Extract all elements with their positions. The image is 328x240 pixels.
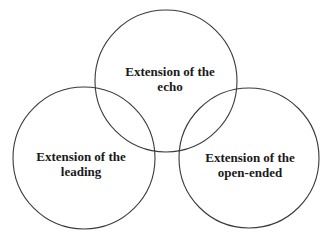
label-leading-line2: leading: [61, 164, 102, 179]
circle-echo-group: Extension of the echo: [95, 10, 237, 152]
label-open-ended-line2: open-ended: [218, 165, 283, 180]
label-echo-line2: echo: [157, 79, 182, 94]
circle-open-ended-group: Extension of the open-ended: [179, 88, 319, 228]
circle-leading-group: Extension of the leading: [13, 87, 155, 229]
label-leading-line1: Extension of the: [36, 149, 126, 164]
label-open-ended-line1: Extension of the: [205, 150, 295, 165]
venn-diagram: Extension of the echo Extension of the l…: [0, 0, 328, 240]
label-echo-line1: Extension of the: [125, 64, 215, 79]
